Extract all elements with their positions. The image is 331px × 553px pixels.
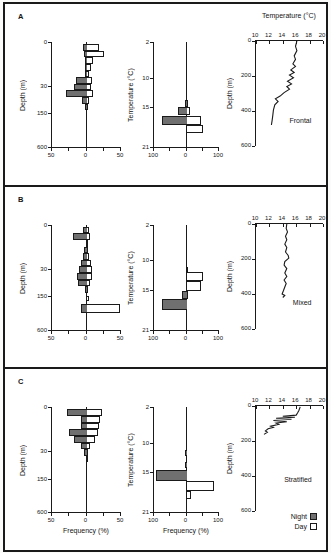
water-column-type-label: Stratified (284, 476, 312, 483)
x-tick-label: 50 (117, 152, 124, 158)
night-bar (67, 409, 86, 416)
legend-night-label: Night (291, 513, 307, 520)
day-bar (87, 443, 90, 450)
x-tick-mark (218, 148, 219, 151)
y-tick-mark (252, 41, 255, 42)
y-tick-label: 600 (37, 327, 47, 333)
x-tick-label: 10 (252, 397, 259, 403)
x-tick-mark (186, 331, 187, 334)
x-tick-mark (296, 224, 297, 227)
y-tick-mark (252, 294, 255, 295)
depth-axis-label: Depth (m) (226, 223, 233, 329)
day-bar (87, 90, 94, 97)
x-tick-mark (269, 41, 270, 44)
y-tick-mark (150, 407, 153, 408)
y-tick-label: 400 (241, 290, 251, 296)
x-tick-mark (120, 513, 121, 516)
panel-c: C Depth (m) 030150600 50050 Frequency (%… (5, 369, 326, 550)
x-tick-label: 18 (305, 215, 312, 221)
x-tick-mark (256, 406, 257, 409)
y-tick-label: 15 (142, 287, 149, 293)
x-tick-mark (86, 331, 87, 334)
night-bar (162, 116, 186, 125)
night-bar (69, 429, 86, 436)
y-tick-mark (150, 107, 153, 108)
x-tick-label: 0 (84, 335, 87, 341)
y-tick-mark (252, 111, 255, 112)
night-bar (77, 273, 87, 280)
plot-area (153, 407, 219, 513)
x-tick-mark (153, 148, 154, 151)
day-bar (187, 116, 202, 125)
x-tick-label: 20 (319, 397, 326, 403)
x-tick-label: 0 (84, 152, 87, 158)
x-tick-label: 20 (319, 215, 326, 221)
day-bar (87, 227, 89, 234)
x-tick-label: 50 (48, 335, 55, 341)
night-bar (74, 436, 86, 443)
plot-area: Frontal (255, 40, 323, 146)
x-tick-mark (269, 224, 270, 227)
y-axis-ticks: 0200400600 (235, 223, 253, 329)
x-tick-mark (296, 41, 297, 44)
y-tick-mark (48, 296, 51, 297)
x-tick-mark (169, 331, 170, 334)
y-axis-ticks: 2101521 (135, 407, 151, 513)
x-tick-label: 50 (48, 152, 55, 158)
night-bar (76, 77, 86, 84)
water-column-type-label: Mixed (293, 299, 312, 306)
y-tick-label: 2 (146, 39, 149, 45)
plot-area (51, 42, 121, 148)
plot-area: Mixed (255, 223, 323, 329)
night-bar (178, 107, 186, 115)
x-tick-label: 50 (117, 335, 124, 341)
y-tick-mark (252, 76, 255, 77)
x-tick-mark (186, 513, 187, 516)
x-tick-label: 0 (84, 517, 87, 523)
x-tick-mark (310, 406, 311, 409)
x-tick-mark (283, 406, 284, 409)
x-tick-label: 16 (292, 32, 299, 38)
panel-a: A Depth (m) 030150600 50050 Temperature … (5, 4, 326, 187)
temperature-axis-label: Temperature (°C) (127, 42, 134, 148)
y-axis-ticks: 2101521 (135, 42, 151, 148)
legend-night-row: Night (291, 513, 317, 520)
y-tick-mark (48, 225, 51, 226)
y-tick-mark (48, 42, 51, 43)
x-tick-label: 12 (265, 397, 272, 403)
x-tick-label: 20 (319, 32, 326, 38)
y-axis-ticks: 030150600 (29, 225, 49, 331)
day-bar (87, 253, 89, 260)
y-tick-label: 400 (241, 472, 251, 478)
y-tick-mark (150, 472, 153, 473)
x-tick-mark (153, 331, 154, 334)
x-tick-mark (120, 148, 121, 151)
y-tick-mark (252, 224, 255, 225)
plot-area (51, 225, 121, 331)
y-tick-label: 200 (241, 72, 251, 78)
x-tick-mark (323, 406, 324, 409)
y-tick-mark (252, 146, 255, 147)
y-tick-label: 10 (142, 440, 149, 446)
day-bar (187, 107, 191, 115)
day-bar (87, 44, 99, 51)
depth-axis-label: Depth (m) (226, 40, 233, 146)
x-tick-label: 12 (265, 215, 272, 221)
night-bar (185, 450, 186, 455)
y-tick-label: 0 (248, 402, 251, 408)
x-tick-mark (86, 513, 87, 516)
day-bar (87, 260, 91, 267)
night-bar (162, 299, 186, 310)
y-tick-label: 0 (44, 39, 47, 45)
day-swatch (310, 523, 317, 530)
x-tick-label: 10 (252, 215, 259, 221)
x-tick-label: 16 (292, 215, 299, 221)
x-tick-label: 14 (278, 215, 285, 221)
day-bar (187, 291, 188, 299)
x-axis-ticks: 1000100 (153, 148, 219, 160)
x-tick-label: 0 (184, 335, 187, 341)
x-tick-label: 50 (48, 517, 55, 523)
x-tick-mark (103, 148, 104, 151)
x-tick-mark (68, 331, 69, 334)
plot-area: Stratified (255, 405, 323, 511)
